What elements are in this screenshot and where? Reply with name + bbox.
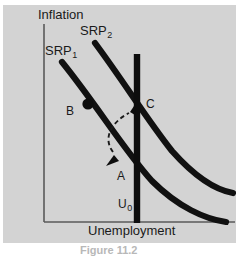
x-axis-label: Unemployment xyxy=(88,224,175,237)
srp2-curve-label: SRP2 xyxy=(80,24,112,37)
figure-caption: Figure 11.2 xyxy=(80,246,137,256)
srp1-curve xyxy=(62,62,226,222)
point-c-label: C xyxy=(146,98,155,110)
lrp-curve-label: U0 xyxy=(118,198,132,210)
srp2-curve xyxy=(95,43,233,193)
point-b-marker xyxy=(82,98,93,109)
point-a-label: A xyxy=(117,170,125,182)
phillips-curve-figure: Inflation Unemployment SRP1 SRP2 U0 B C … xyxy=(0,0,246,257)
u0-label-text: U xyxy=(118,197,127,211)
y-axis-label: Inflation xyxy=(38,8,84,21)
point-b-label: B xyxy=(66,105,74,117)
adjustment-arrowhead-toward-a xyxy=(106,155,119,166)
srp1-label-subscript: 1 xyxy=(72,50,78,60)
srp1-label-text: SRP xyxy=(45,43,72,58)
srp2-label-text: SRP xyxy=(80,23,107,38)
u0-label-subscript: 0 xyxy=(127,203,133,213)
figure-caption-strip: Figure 11.2 xyxy=(0,246,246,257)
srp2-label-subscript: 2 xyxy=(107,30,113,40)
adjustment-arrowhead-toward-c xyxy=(130,103,136,115)
srp1-curve-label: SRP1 xyxy=(45,44,77,57)
